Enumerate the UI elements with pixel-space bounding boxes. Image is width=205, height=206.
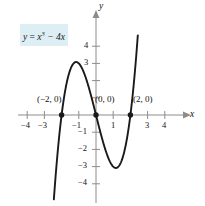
equation-lhs: y xyxy=(23,32,27,42)
point-dot-left xyxy=(59,112,64,117)
equation-label: y = x3 − 4x xyxy=(20,24,68,46)
equation-equals: = xyxy=(30,32,35,42)
x-tick-label--4: −4 xyxy=(21,121,30,130)
x-tick-label-3: 3 xyxy=(145,121,149,130)
y-tick-label--1: −1 xyxy=(78,127,87,136)
x-tick-label-1: 1 xyxy=(111,121,115,130)
x-axis-label: x xyxy=(190,110,194,120)
y-axis-label: y xyxy=(99,2,103,12)
point-label-origin: (0, 0) xyxy=(95,95,115,104)
y-tick-label--3: −3 xyxy=(78,161,87,170)
y-tick-label-3: 3 xyxy=(84,58,88,67)
y-tick-label-4: 4 xyxy=(84,41,88,50)
point-label-left: (−2, 0) xyxy=(37,95,62,104)
x-tick-label--3: −3 xyxy=(38,121,47,130)
x-tick-label-4: 4 xyxy=(162,121,166,130)
y-tick-label--2: −2 xyxy=(78,144,87,153)
equation-text: y = x3 − 4x xyxy=(23,32,65,42)
y-tick-label--4: −4 xyxy=(78,178,87,187)
equation-exponent: 3 xyxy=(42,30,45,37)
point-dot-right xyxy=(128,112,133,117)
graph-figure: y = x3 − 4x x y −4 −3 −1 1 3 4 4 3 −1 −2… xyxy=(0,0,205,206)
equation-rest: − 4x xyxy=(47,32,65,42)
point-dot-origin xyxy=(93,112,98,117)
point-label-right: (2, 0) xyxy=(133,95,153,104)
